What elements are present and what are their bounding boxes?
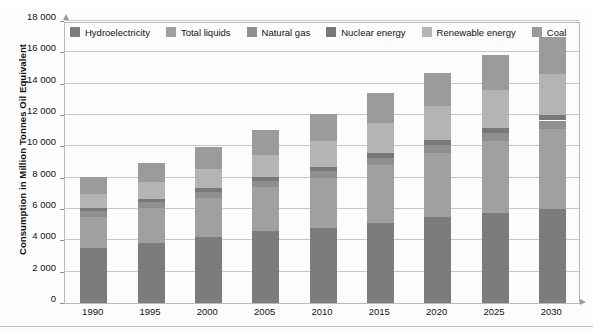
gridline	[65, 51, 579, 52]
legend-item[interactable]: Hydroelectricity	[70, 27, 150, 38]
figure-bottom-rule	[0, 326, 593, 327]
bar-segment[interactable]	[252, 187, 279, 231]
x-axis-tick-label: 2010	[292, 306, 352, 317]
x-axis-arrow-icon	[580, 299, 586, 305]
legend-item[interactable]: Renewable energy	[422, 27, 516, 38]
bar-segment[interactable]	[195, 237, 222, 303]
bar-segment[interactable]	[195, 198, 222, 237]
legend-item-label: Nuclear energy	[341, 27, 405, 38]
bar-segment[interactable]	[367, 153, 394, 157]
bar-segment[interactable]	[80, 211, 107, 216]
legend-item-label: Total liquids	[181, 27, 231, 38]
bar-segment[interactable]	[424, 217, 451, 303]
x-axis-tick-label: 2030	[521, 306, 581, 317]
chart-root: Consumption in Million Tonnes Oil Equiva…	[0, 0, 593, 332]
bar-segment[interactable]	[539, 74, 566, 115]
legend-item-label: Hydroelectricity	[85, 27, 150, 38]
y-axis-tick-label: 4 000	[0, 231, 56, 241]
legend-item-label: Coal	[547, 27, 567, 38]
chart-legend: HydroelectricityTotal liquidsNatural gas…	[70, 24, 578, 40]
bar-segment[interactable]	[252, 155, 279, 177]
bar-segment[interactable]	[482, 213, 509, 303]
bar-segment[interactable]	[138, 182, 165, 198]
y-axis-tick-label: 8 000	[0, 169, 56, 179]
y-axis-tick-label: 0	[0, 294, 56, 304]
y-axis-tick-label: 12 000	[0, 106, 56, 116]
legend-item[interactable]: Nuclear energy	[326, 27, 405, 38]
bar-segment[interactable]	[539, 115, 566, 120]
legend-item[interactable]: Natural gas	[247, 27, 311, 38]
legend-item-label: Renewable energy	[437, 27, 516, 38]
x-axis-tick-labels: 199019952000200520102015202020252030	[64, 306, 580, 324]
legend-swatch-icon	[422, 27, 432, 37]
bar-segment[interactable]	[310, 171, 337, 178]
legend-swatch-icon	[70, 27, 80, 37]
bar-segment[interactable]	[195, 192, 222, 198]
legend-swatch-icon	[326, 27, 336, 37]
x-axis-tick-label: 1995	[120, 306, 180, 317]
bar-segment[interactable]	[424, 73, 451, 106]
bar-segment[interactable]	[252, 177, 279, 181]
bar-segment[interactable]	[195, 147, 222, 169]
bar-segment[interactable]	[80, 217, 107, 248]
bar-segment[interactable]	[539, 121, 566, 130]
bar-segment[interactable]	[252, 231, 279, 303]
legend-item[interactable]: Coal	[532, 27, 567, 38]
bar-segment[interactable]	[80, 208, 107, 211]
y-axis-tick-label: 6 000	[0, 200, 56, 210]
x-axis-tick-label: 2025	[464, 306, 524, 317]
bar-segment[interactable]	[482, 55, 509, 90]
bar-segment[interactable]	[138, 243, 165, 303]
bar-segment[interactable]	[195, 188, 222, 192]
bar-segment[interactable]	[310, 178, 337, 228]
bar-segment[interactable]	[482, 141, 509, 213]
bar-segment[interactable]	[310, 228, 337, 303]
bar-segment[interactable]	[367, 93, 394, 124]
y-axis-tick-label: 10 000	[0, 137, 56, 147]
y-axis-tick-label: 18 000	[0, 12, 56, 22]
x-axis-tick-label: 2015	[349, 306, 409, 317]
bar-segment[interactable]	[424, 140, 451, 145]
bar-segment[interactable]	[252, 130, 279, 155]
bar-segment[interactable]	[252, 181, 279, 188]
bar-segment[interactable]	[482, 90, 509, 128]
bar-segment[interactable]	[310, 114, 337, 141]
legend-item[interactable]: Total liquids	[166, 27, 231, 38]
bar-segment[interactable]	[424, 153, 451, 217]
bar-segment[interactable]	[482, 133, 509, 141]
x-axis-tick-label: 1990	[63, 306, 123, 317]
bar-segment[interactable]	[138, 208, 165, 242]
bar-segment[interactable]	[138, 163, 165, 183]
x-axis-tick-label: 2020	[407, 306, 467, 317]
bar-segment[interactable]	[138, 202, 165, 208]
bar-segment[interactable]	[367, 223, 394, 303]
bar-segment[interactable]	[80, 177, 107, 194]
legend-item-label: Natural gas	[262, 27, 311, 38]
bar-segment[interactable]	[367, 158, 394, 166]
x-axis-tick-label: 2000	[177, 306, 237, 317]
bar-segment[interactable]	[367, 165, 394, 223]
bar-segment[interactable]	[539, 209, 566, 303]
y-axis-tick-labels: 02 0004 0006 0008 00010 00012 00014 0001…	[0, 22, 60, 304]
legend-swatch-icon	[247, 27, 257, 37]
plot-area	[64, 22, 580, 304]
bar-segment[interactable]	[482, 128, 509, 133]
y-axis-tick-label: 16 000	[0, 43, 56, 53]
bar-segment[interactable]	[424, 106, 451, 140]
bar-segment[interactable]	[539, 129, 566, 209]
bar-segment[interactable]	[138, 199, 165, 202]
bar-segment[interactable]	[424, 145, 451, 153]
bar-segment[interactable]	[310, 141, 337, 166]
legend-swatch-icon	[166, 27, 176, 37]
bar-segment[interactable]	[539, 37, 566, 75]
bar-segment[interactable]	[195, 169, 222, 188]
y-axis-tick-label: 2 000	[0, 263, 56, 273]
gridline	[65, 20, 579, 21]
bar-segment[interactable]	[80, 248, 107, 303]
x-axis-tick-label: 2005	[235, 306, 295, 317]
bar-segment[interactable]	[80, 194, 107, 208]
bar-segment[interactable]	[367, 123, 394, 153]
legend-swatch-icon	[532, 27, 542, 37]
bar-segment[interactable]	[310, 167, 337, 171]
y-axis-tick-label: 14 000	[0, 75, 56, 85]
